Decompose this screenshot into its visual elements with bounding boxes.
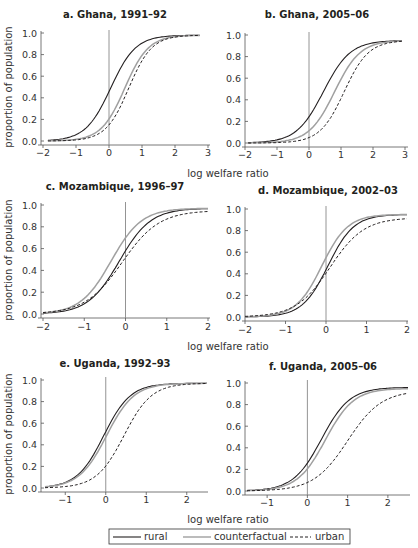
curve-counterfactual [48, 35, 200, 140]
x-tick-label: 2 [205, 321, 211, 332]
chart-panel-b: b. Ghana, 2005–060.00.20.40.60.81.0−2−10… [226, 9, 408, 160]
y-tick-label: 1.0 [22, 200, 37, 211]
y-tick-label: 0.4 [22, 92, 37, 103]
y-tick-label: 0.0 [22, 483, 37, 494]
x-tick-label: 1 [338, 149, 344, 160]
panel-title: a. Ghana, 1991–92 [63, 9, 167, 20]
y-tick-label: 0.8 [226, 225, 241, 236]
x-tick-label: −2 [36, 147, 50, 158]
x-tick-label: −1 [77, 321, 91, 332]
y-tick-label: 0.2 [226, 116, 241, 127]
x-tick-label: 0 [323, 324, 329, 335]
panel-title: f. Uganda, 2005–06 [269, 361, 377, 372]
y-tick-label: 0.2 [22, 461, 37, 472]
x-tick-label: 1 [139, 147, 145, 158]
legend-label-urban: urban [315, 531, 344, 542]
y-tick-label: 0.6 [226, 247, 241, 258]
y-tick-label: 0.8 [22, 396, 37, 407]
chart-panel-a: a. Ghana, 1991–920.00.20.40.60.81.0−2−10… [22, 9, 211, 158]
legend-label-rural: rural [144, 531, 167, 542]
x-tick-label: 2 [385, 497, 391, 508]
chart-panel-c: c. Mozambique, 1996–970.00.20.40.60.81.0… [22, 181, 211, 332]
x-tick-label: −2 [238, 324, 252, 335]
x-tick-label: −1 [260, 497, 274, 508]
panel-title: d. Mozambique, 2002–03 [258, 185, 398, 196]
legend: rural counterfactual urban [109, 529, 350, 544]
x-tick-label: 1 [164, 321, 170, 332]
y-tick-label: 0.6 [22, 71, 37, 82]
y-tick-label: 0.4 [22, 265, 37, 276]
y-axis-label: proportion of population [3, 26, 14, 147]
y-tick-label: 0.8 [22, 49, 37, 60]
y-tick-label: 1.0 [22, 28, 37, 39]
x-tick-label: −1 [69, 147, 83, 158]
y-tick-label: 0.6 [226, 421, 241, 432]
y-tick-label: 1.0 [226, 378, 241, 389]
x-tick-label: −1 [58, 494, 72, 505]
x-tick-label: 2 [184, 494, 190, 505]
y-tick-label: 0.0 [226, 138, 241, 149]
y-tick-label: 0.2 [22, 287, 37, 298]
x-axis-label-middle: log welfare ratio [187, 341, 268, 352]
x-tick-label: 2 [370, 149, 376, 160]
y-tick-label: 0.0 [226, 486, 241, 497]
y-tick-label: 0.2 [226, 290, 241, 301]
panel-title: c. Mozambique, 1996–97 [46, 181, 185, 192]
x-tick-label: 0 [306, 149, 312, 160]
x-tick-label: 3 [402, 149, 408, 160]
y-tick-label: 0.4 [226, 268, 241, 279]
y-tick-label: 0.0 [226, 312, 241, 323]
x-tick-label: 0 [304, 497, 310, 508]
curve-rural [248, 41, 402, 143]
curve-rural [247, 388, 408, 491]
y-tick-label: 0.6 [22, 243, 37, 254]
x-tick-label: −2 [36, 321, 50, 332]
x-axis-label-bottom: log welfare ratio [187, 514, 268, 525]
x-tick-label: 3 [205, 147, 211, 158]
y-tick-label: 0.8 [22, 221, 37, 232]
x-axis-label-top: log welfare ratio [187, 168, 268, 179]
legend-label-counterfactual: counterfactual [214, 531, 287, 542]
x-tick-label: 1 [143, 494, 149, 505]
chart-panel-e: e. Uganda, 1992–930.00.20.40.60.81.0−101… [22, 358, 208, 505]
y-tick-label: 0.0 [22, 309, 37, 320]
y-tick-label: 0.4 [22, 439, 37, 450]
curve-rural [48, 35, 200, 140]
x-tick-label: 2 [172, 147, 178, 158]
y-tick-label: 0.0 [22, 136, 37, 147]
y-tick-label: 0.6 [226, 73, 241, 84]
curve-urban [247, 393, 408, 490]
panel-title: b. Ghana, 2005–06 [265, 9, 369, 20]
x-tick-label: 2 [404, 324, 410, 335]
y-axis-label: proportion of population [3, 199, 14, 320]
y-tick-label: 0.8 [226, 51, 241, 62]
x-tick-label: 0 [122, 321, 128, 332]
panels-group: a. Ghana, 1991–920.00.20.40.60.81.0−2−10… [3, 9, 410, 508]
curve-urban [248, 41, 402, 143]
panel-title: e. Uganda, 1992–93 [59, 358, 170, 369]
curve-urban [48, 35, 200, 140]
chart-panel-d: d. Mozambique, 2002–030.00.20.40.60.81.0… [226, 185, 410, 335]
y-tick-label: 0.2 [22, 114, 37, 125]
y-tick-label: 0.4 [226, 94, 241, 105]
x-tick-label: −1 [270, 149, 284, 160]
x-tick-label: −1 [278, 324, 292, 335]
y-tick-label: 1.0 [226, 30, 241, 41]
y-tick-label: 1.0 [22, 375, 37, 386]
curve-counterfactual [45, 383, 207, 487]
x-tick-label: 1 [345, 497, 351, 508]
y-tick-label: 0.8 [226, 399, 241, 410]
x-tick-label: −2 [238, 149, 252, 160]
chart-panel-f: f. Uganda, 2005–060.00.20.40.60.81.0−101… [226, 361, 410, 508]
y-tick-label: 0.6 [22, 418, 37, 429]
y-axis-label: proportion of population [3, 373, 14, 494]
curve-rural [45, 383, 207, 486]
y-tick-label: 0.4 [226, 442, 241, 453]
x-tick-label: 0 [106, 147, 112, 158]
x-tick-label: 1 [363, 324, 369, 335]
curve-counterfactual [248, 41, 402, 143]
x-tick-label: 0 [103, 494, 109, 505]
y-tick-label: 0.2 [226, 464, 241, 475]
y-tick-label: 1.0 [226, 204, 241, 215]
figure-canvas: a. Ghana, 1991–920.00.20.40.60.81.0−2−10… [0, 0, 418, 548]
